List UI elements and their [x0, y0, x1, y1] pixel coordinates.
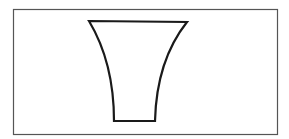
diagram-canvas — [0, 0, 289, 139]
